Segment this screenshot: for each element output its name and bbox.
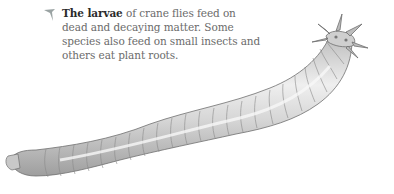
caption: The larvae of crane flies feed on dead a… bbox=[44, 6, 264, 62]
larva-tail bbox=[6, 154, 20, 170]
caption-bold-lead: The larvae bbox=[62, 7, 123, 19]
caption-text: The larvae of crane flies feed on dead a… bbox=[62, 6, 264, 62]
pointer-arrow-icon bbox=[44, 9, 56, 21]
